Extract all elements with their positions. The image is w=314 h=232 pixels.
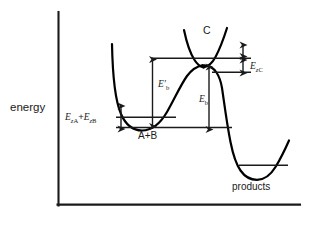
complex-c-left-branch-curve bbox=[184, 30, 204, 67]
classical-barrier-height-label: E′b bbox=[158, 78, 169, 91]
zero-point-energy-reactants-label: EzA+EzB bbox=[65, 111, 97, 124]
complex-c-label: C bbox=[203, 24, 211, 36]
barrier-peak-and-product-descent-curve bbox=[203, 65, 290, 179]
axes-group bbox=[58, 12, 301, 206]
eb-prime-sub-b: b bbox=[166, 84, 169, 91]
ez-c-sub-c: C bbox=[258, 66, 262, 73]
potential-energy-diagram-svg bbox=[0, 0, 314, 232]
products-label: products bbox=[232, 181, 270, 192]
effective-barrier-height-label: Eb bbox=[199, 93, 208, 106]
energy-level-lines-group bbox=[116, 58, 288, 165]
ez-b-sub-b: B bbox=[92, 117, 96, 124]
y-axis-label: energy bbox=[10, 101, 45, 113]
diagram-canvas: energy C A+B products EzA+EzB EzC E′b Eb bbox=[0, 0, 314, 232]
eb-sub-b: b bbox=[205, 99, 208, 106]
reactants-label: A+B bbox=[138, 130, 157, 141]
zero-point-energy-complex-label: EzC bbox=[250, 60, 263, 73]
